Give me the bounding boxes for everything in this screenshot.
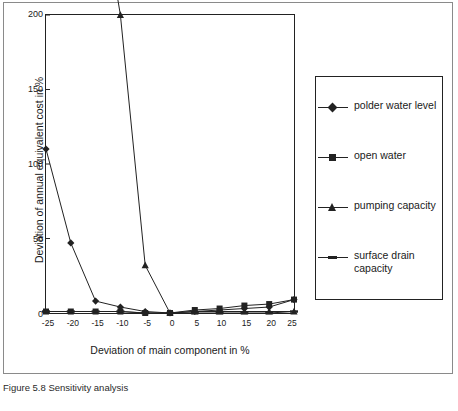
legend-label: polder water level	[350, 99, 436, 112]
data-point-marker	[240, 312, 248, 314]
x-tick-label: 25	[287, 318, 296, 328]
data-point-marker	[266, 301, 272, 307]
data-point-marker	[265, 312, 273, 314]
x-axis-title: Deviation of main component in %	[45, 344, 295, 356]
x-tick-label: -25	[42, 318, 54, 328]
legend-item-pumping-capacity[interactable]: pumping capacity	[316, 199, 444, 239]
x-tick-label: -5	[143, 318, 151, 328]
data-point-marker	[92, 310, 100, 312]
data-point-marker	[142, 262, 149, 269]
data-point-marker	[141, 312, 149, 314]
y-tick-label: 150	[28, 85, 43, 94]
legend-label: open water	[350, 149, 406, 162]
plot-inner	[46, 15, 294, 313]
data-point-marker	[290, 310, 298, 312]
series-svg	[46, 15, 294, 313]
axis-ticks	[46, 15, 50, 313]
legend-item-polder-water-level[interactable]: polder water level	[316, 99, 444, 139]
x-tick-label: -20	[67, 318, 79, 328]
legend-item-surface-drain-capacity[interactable]: surface drain capacity	[316, 249, 444, 289]
x-tick-label: 5	[194, 318, 199, 328]
y-tick-label: 200	[28, 10, 43, 19]
triangle-marker-icon	[316, 201, 350, 215]
series-line-0	[46, 149, 294, 313]
legend-item-open-water[interactable]: open water	[316, 149, 444, 189]
x-tick-label: 10	[217, 318, 226, 328]
square-marker-icon	[316, 151, 350, 165]
data-point-marker	[216, 312, 224, 314]
data-point-marker	[92, 297, 99, 304]
dash-marker-icon	[316, 251, 350, 265]
legend-label: pumping capacity	[350, 199, 436, 212]
data-point-marker	[191, 312, 199, 314]
y-axis-tick-labels: 0 50 100 150 200	[10, 14, 43, 314]
diamond-marker-icon	[316, 101, 350, 115]
x-tick-label: -10	[116, 318, 128, 328]
figure-container: Deviation of annual equivalent cost in %…	[0, 0, 458, 411]
legend-label: surface drain capacity	[350, 249, 444, 274]
data-point-marker	[67, 310, 75, 312]
data-point-marker	[116, 310, 124, 312]
legend: polder water level open water pumping ca…	[315, 76, 443, 300]
y-tick-label: 100	[28, 160, 43, 169]
x-tick-label: 0	[170, 318, 175, 328]
data-point-marker	[291, 297, 297, 303]
plot-area	[45, 14, 295, 314]
x-tick-label: -15	[91, 318, 103, 328]
series-line-2	[46, 0, 294, 313]
data-point-marker	[42, 310, 50, 312]
x-tick-label: 20	[266, 318, 275, 328]
figure-caption: Figure 5.8 Sensitivity analysis	[3, 382, 303, 393]
y-tick-label: 50	[33, 235, 43, 244]
data-point-marker	[241, 303, 247, 309]
x-axis-tick-labels: -25 -20 -15 -10 -5 0 5 10 15 20 25	[45, 318, 295, 332]
data-point-marker	[67, 239, 74, 246]
data-point-marker	[166, 312, 174, 314]
x-tick-label: 15	[242, 318, 251, 328]
